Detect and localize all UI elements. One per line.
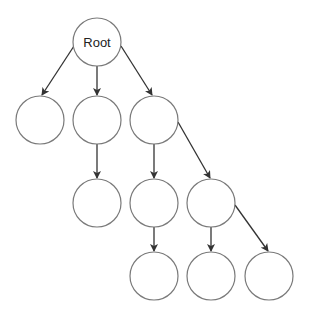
edge-root-to-n1: [42, 46, 74, 95]
node-circle: [73, 96, 121, 144]
node-circle: [187, 179, 235, 227]
node-label: Root: [83, 35, 111, 50]
node-circle: [187, 252, 235, 300]
node-n6: [187, 179, 235, 227]
node-n7: [130, 252, 178, 300]
node-n2: [73, 96, 121, 144]
node-circle: [130, 252, 178, 300]
node-root: Root: [73, 18, 121, 66]
edge-n6-to-n9: [235, 205, 268, 251]
node-n8: [187, 252, 235, 300]
node-circle: [130, 96, 178, 144]
node-circle: [130, 179, 178, 227]
node-circle: [16, 96, 64, 144]
node-n5: [130, 179, 178, 227]
node-n3: [130, 96, 178, 144]
node-circle: [73, 179, 121, 227]
node-n9: [245, 252, 293, 300]
node-circle: [245, 252, 293, 300]
edge-root-to-n3: [121, 46, 152, 95]
node-n1: [16, 96, 64, 144]
node-n4: [73, 179, 121, 227]
tree-diagram: Root: [0, 0, 312, 319]
edge-n3-to-n6: [178, 122, 210, 178]
